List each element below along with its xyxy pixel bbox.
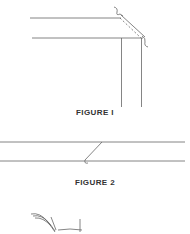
sketch-curved-strokes [31, 214, 55, 232]
figure-3-sketch [0, 0, 190, 234]
